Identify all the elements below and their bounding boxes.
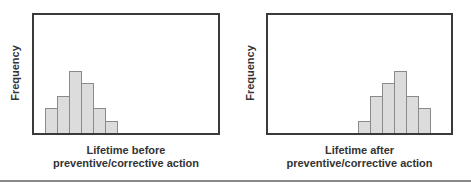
left-x-axis-label: Lifetime before preventive/corrective ac… <box>32 144 220 170</box>
right-y-axis-label: Frequency <box>244 45 256 101</box>
histogram-bar <box>418 108 431 133</box>
right-x-axis-label-line1: Lifetime after <box>266 144 453 157</box>
right-histogram-frame <box>266 13 453 135</box>
left-histogram-frame <box>32 13 220 135</box>
left-x-axis-label-line2: preventive/corrective action <box>32 157 220 170</box>
left-histogram-bars <box>34 15 218 133</box>
left-x-axis-label-line1: Lifetime before <box>32 144 220 157</box>
right-x-axis-label-line2: preventive/corrective action <box>266 157 453 170</box>
histogram-bar <box>105 121 118 133</box>
right-x-axis-label: Lifetime after preventive/corrective act… <box>266 144 453 170</box>
bottom-divider-rule <box>0 180 471 182</box>
right-histogram-bars <box>268 15 451 133</box>
left-y-axis-label: Frequency <box>9 45 21 101</box>
